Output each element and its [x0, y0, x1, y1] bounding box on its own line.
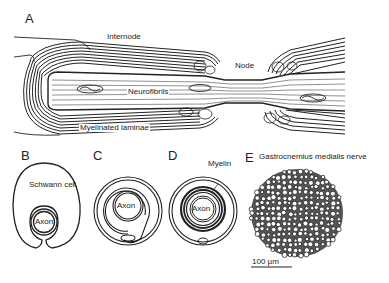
label-schwann-cell: Schwann cell: [29, 181, 76, 189]
nerve-fiber: [292, 190, 297, 195]
nerve-fiber: [292, 232, 296, 236]
nerve-fiber: [255, 227, 259, 231]
nerve-fiber: [283, 238, 288, 243]
nerve-fiber: [293, 248, 298, 253]
nerve-fiber: [260, 185, 265, 190]
nerve-fiber: [266, 180, 271, 185]
nerve-fiber: [331, 206, 335, 210]
nerve-fiber: [337, 196, 341, 200]
nerve-fiber: [316, 196, 319, 199]
nerve-fiber: [314, 216, 318, 220]
nerve-fiber: [298, 201, 302, 205]
nerve-fiber: [305, 237, 308, 240]
nerve-fiber: [299, 217, 303, 221]
nerve-fiber: [310, 175, 314, 179]
label-internode: Internode: [107, 33, 141, 41]
label-axon-d: Axon: [192, 205, 210, 213]
nerve-fiber: [304, 181, 307, 184]
nerve-fiber: [266, 201, 270, 205]
nerve-fiber: [288, 253, 292, 257]
nerve-fiber: [321, 202, 325, 206]
nerve-fiber: [256, 212, 259, 215]
nerve-fiber: [310, 196, 313, 199]
nerve-fiber: [294, 213, 297, 216]
nerve-fiber: [294, 186, 297, 189]
nerve-fiber: [303, 200, 308, 205]
label-myelinated-laminae: Myelinated laminae: [79, 124, 150, 132]
nerve-fiber: [271, 227, 276, 232]
panel-letter-a: A: [25, 12, 34, 25]
nerve-fiber: [293, 180, 298, 185]
nerve-fiber: [325, 191, 330, 196]
nerve-fiber: [267, 238, 271, 242]
panel-letter-c: C: [93, 149, 102, 162]
nerve-fiber: [288, 191, 292, 195]
nerve-fiber: [287, 175, 291, 179]
nerve-fiber: [320, 211, 324, 215]
nerve-fiber: [272, 201, 275, 204]
nerve-fiber: [255, 190, 260, 195]
nerve-fiber: [277, 238, 281, 242]
nerve-fiber: [304, 175, 308, 179]
nerve-fiber: [299, 253, 304, 258]
nerve-fiber: [271, 221, 276, 226]
nerve-fiber: [255, 232, 260, 237]
nerve-fiber: [321, 243, 324, 246]
nerve-fiber: [266, 228, 269, 231]
nerve-fiber: [309, 222, 313, 226]
panel-letter-e: E: [245, 151, 254, 164]
nerve-fiber: [297, 237, 302, 242]
nerve-fiber: [288, 212, 293, 217]
nerve-fiber: [294, 175, 298, 179]
nerve-fiber: [310, 227, 314, 231]
nerve-fiber: [308, 242, 313, 247]
nerve-fiber: [266, 216, 271, 221]
label-scale-bar: 100 µm: [251, 258, 280, 266]
panel-letter-d: D: [168, 149, 177, 162]
nerve-fiber: [298, 249, 302, 253]
nerve-fiber: [326, 233, 329, 236]
nerve-fiber: [292, 206, 297, 211]
nerve-fiber: [261, 237, 264, 240]
nerve-fiber: [276, 184, 281, 189]
nerve-fiber: [287, 185, 292, 190]
nerve-fiber: [314, 242, 319, 247]
nerve-fiber: [298, 190, 302, 194]
nerve-fiber: [266, 212, 269, 215]
nerve-fiber: [327, 223, 330, 226]
nerve-fiber: [270, 185, 274, 189]
nerve-fiber: [311, 185, 314, 188]
nerve-fiber: [314, 185, 318, 189]
nerve-fiber: [325, 211, 329, 215]
nerve-diagram-canvas: [0, 0, 389, 283]
nerve-fiber: [298, 186, 303, 191]
nerve-fiber: [304, 211, 308, 215]
nerve-fiber: [304, 169, 308, 173]
nerve-fiber: [319, 221, 324, 226]
nerve-fiber: [282, 232, 286, 236]
label-axon-c: Axon: [117, 202, 135, 210]
nerve-fiber: [337, 218, 340, 221]
nerve-fiber: [304, 232, 308, 236]
nerve-fiber: [283, 228, 286, 231]
nerve-fiber: [271, 248, 274, 251]
nerve-fiber: [331, 237, 336, 242]
nerve-fiber: [292, 171, 296, 175]
nerve-fiber: [276, 242, 280, 246]
nerve-fiber: [321, 217, 324, 220]
nerve-fiber: [326, 185, 330, 189]
nerve-fiber: [249, 216, 253, 220]
nerve-fiber: [298, 231, 303, 236]
nerve-fiber: [260, 222, 264, 226]
panel-e-nerve-bundle: [249, 169, 343, 267]
nerve-fiber: [266, 244, 270, 248]
nerve-fiber: [255, 217, 258, 220]
nerve-fiber: [314, 206, 318, 210]
nerve-fiber: [277, 226, 282, 231]
nerve-fiber: [267, 233, 270, 236]
nerve-fiber: [281, 175, 286, 180]
nerve-fiber: [261, 205, 266, 210]
nerve-fiber: [272, 216, 277, 221]
label-myelin: Myelin: [208, 160, 231, 168]
nerve-fiber: [277, 196, 281, 200]
